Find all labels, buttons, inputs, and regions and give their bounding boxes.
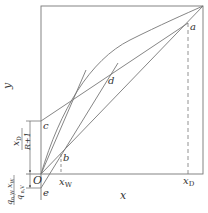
origin-label: O xyxy=(33,174,42,187)
svg-text:qn,WxW: qn,WxW xyxy=(5,177,15,205)
diagram-svg: y x O a b c d e xW xD xD R+1 qn,WxW q′n,… xyxy=(0,0,208,213)
stripping-intercept-fraction: qn,WxW q′n,V xyxy=(5,175,25,205)
stripping-operating-line xyxy=(41,63,118,188)
svg-text:xD: xD xyxy=(11,136,22,146)
x-axis-label: x xyxy=(120,189,127,202)
point-e-label: e xyxy=(43,187,49,198)
svg-text:R+1: R+1 xyxy=(23,132,32,151)
xd-over-r-plus-1-fraction: xD R+1 xyxy=(11,128,32,151)
point-c-label: c xyxy=(43,120,49,131)
rectifying-operating-line xyxy=(41,23,188,121)
dim-dot-bottom xyxy=(29,185,31,187)
xw-tick-label: xW xyxy=(59,176,73,189)
point-b-label: b xyxy=(63,152,69,163)
point-d-label: d xyxy=(108,75,114,86)
y-axis-label: y xyxy=(1,82,14,90)
diagram-canvas: y x O a b c d e xW xD xD R+1 qn,WxW q′n,… xyxy=(0,0,208,213)
dim-dot-top xyxy=(29,170,31,172)
xd-tick-label: xD xyxy=(183,175,195,188)
point-a-label: a xyxy=(190,21,196,32)
